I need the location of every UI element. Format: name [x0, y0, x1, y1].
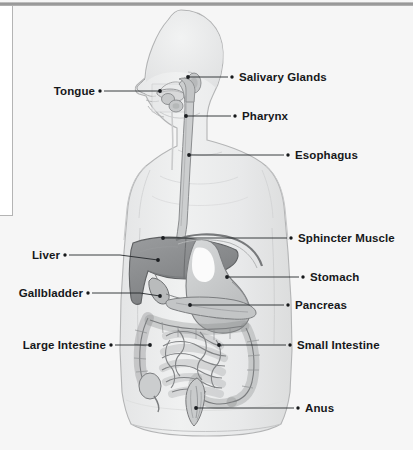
label-esophagus: Esophagus [295, 149, 358, 161]
scan-page-corner [0, 6, 13, 216]
bullet-pancreas [286, 303, 289, 306]
scan-edge-bar [0, 2, 413, 6]
cecum-shape [139, 373, 161, 399]
dot-tongue [158, 89, 162, 93]
label-liver: Liver [0, 249, 60, 261]
label-large-intestine: Large Intestine [0, 339, 106, 351]
label-pharynx: Pharynx [242, 110, 288, 122]
bullet-liver [63, 253, 66, 256]
bullet-anus [296, 406, 299, 409]
dot-liver [156, 258, 160, 262]
bullet-small-intestine [288, 343, 291, 346]
dot-esophagus [187, 153, 191, 157]
dot-sphincter-muscle [161, 236, 165, 240]
diagram-canvas: Tongue Salivary Glands Pharynx Esophagus… [0, 0, 413, 450]
bullet-esophagus [286, 153, 289, 156]
dot-pancreas [188, 303, 192, 307]
bullet-stomach [301, 275, 304, 278]
bullet-pharynx [233, 114, 236, 117]
dot-small-intestine [217, 343, 221, 347]
bullet-tongue [98, 89, 101, 92]
dot-large-intestine [148, 343, 152, 347]
label-sphincter-muscle: Sphincter Muscle [298, 232, 395, 244]
dot-salivary-glands [186, 75, 190, 79]
anatomy-illustration [0, 0, 413, 450]
bullet-gallbladder [86, 291, 89, 294]
label-small-intestine: Small Intestine [297, 339, 380, 351]
label-gallbladder: Gallbladder [0, 287, 83, 299]
bullet-salivary-glands [230, 75, 233, 78]
dot-anus [194, 406, 198, 410]
label-salivary-glands: Salivary Glands [239, 71, 327, 83]
bullet-sphincter-muscle [289, 236, 292, 239]
label-anus: Anus [305, 402, 334, 414]
dot-pharynx [184, 114, 188, 118]
label-tongue: Tongue [0, 85, 95, 97]
label-stomach: Stomach [310, 271, 359, 283]
label-pancreas: Pancreas [295, 299, 347, 311]
dot-stomach [225, 275, 229, 279]
dot-gallbladder [158, 294, 162, 298]
bullet-large-intestine [109, 343, 112, 346]
